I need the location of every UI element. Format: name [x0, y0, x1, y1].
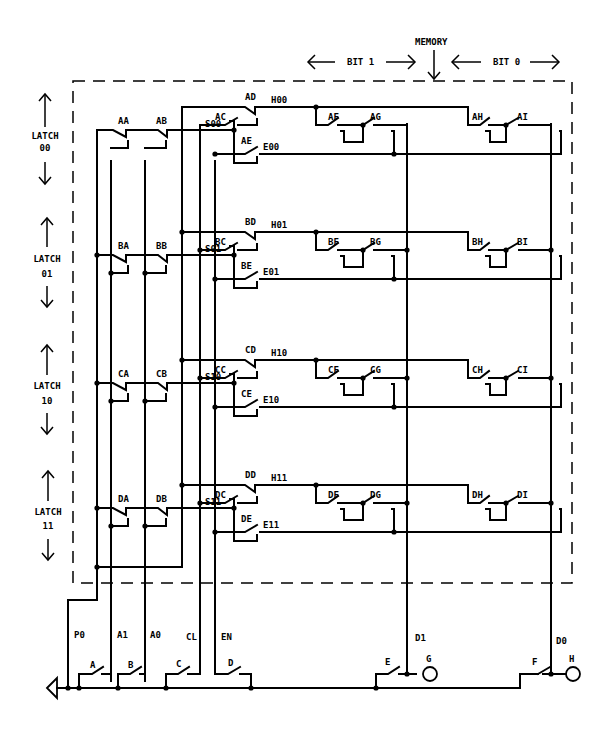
switch-dd[interactable]: DD: [245, 470, 256, 480]
switch-ce[interactable]: CE: [241, 389, 252, 399]
switch-aa[interactable]: AA: [118, 116, 129, 126]
switch-bg[interactable]: BG: [370, 237, 381, 247]
switch-f-label[interactable]: F: [532, 657, 537, 667]
e-net-label: E00: [263, 142, 279, 152]
switch-d-label[interactable]: D: [228, 658, 234, 668]
en-label: EN: [221, 632, 232, 642]
svg-text:01: 01: [42, 269, 53, 279]
latch-row-01: S01BABBBCBDBEBFBGBHBIH01E01: [94, 217, 561, 288]
vertical-buses: [68, 107, 551, 688]
switch-ab[interactable]: AB: [156, 116, 167, 126]
memory-label: MEMORY: [415, 37, 448, 47]
switch-ae[interactable]: AE: [241, 136, 252, 146]
ground-icon: [47, 678, 57, 698]
switch-bd[interactable]: BD: [245, 217, 256, 227]
switch-be[interactable]: BE: [241, 261, 252, 271]
switch-di[interactable]: DI: [517, 490, 528, 500]
e-net-label: E01: [263, 267, 279, 277]
switch-bb[interactable]: BB: [156, 241, 167, 251]
switch-cg[interactable]: CG: [370, 365, 381, 375]
latch-row-11: S11DADBDCDDDEDFDGDHDIH11E11: [94, 470, 561, 541]
memory-header: MEMORY BIT 1 BIT 0: [308, 37, 559, 79]
h-net-label: H00: [271, 95, 287, 105]
bit1-label: BIT 1: [347, 57, 374, 67]
switch-da[interactable]: DA: [118, 494, 129, 504]
p0-label: P0: [74, 630, 85, 640]
lamp-h-label: H: [569, 654, 574, 664]
switch-cb[interactable]: CB: [156, 369, 167, 379]
latch-side-labels: LATCH 00 LATCH 01 LATCH 10 LATCH 11: [31, 94, 61, 560]
h-net-label: H11: [271, 473, 287, 483]
switch-bf[interactable]: BF: [328, 237, 339, 247]
switch-ai[interactable]: AI: [517, 112, 528, 122]
lamp-g-icon: [423, 667, 437, 681]
d1-label: D1: [415, 633, 426, 643]
latch-row-10: S10CACBCCCDCECFCGCHCIH10E10: [94, 345, 561, 416]
switch-af[interactable]: AF: [328, 112, 339, 122]
svg-text:LATCH: LATCH: [31, 131, 58, 141]
latch-row-00: S00AAABACADAEAFAGAHAIH00E00: [97, 92, 561, 163]
switch-cd[interactable]: CD: [245, 345, 256, 355]
switch-ch[interactable]: CH: [472, 365, 483, 375]
svg-text:11: 11: [43, 521, 54, 531]
h-net-label: H10: [271, 348, 287, 358]
latch-00-label: LATCH 00: [31, 94, 58, 184]
e-net-label: E11: [263, 520, 279, 530]
memory-circuit-diagram: MEMORY BIT 1 BIT 0 LATCH 00: [0, 0, 609, 731]
h-net-label: H01: [271, 220, 287, 230]
lamp-g-label: G: [426, 654, 431, 664]
a1-label: A1: [117, 630, 128, 640]
cl-label: CL: [186, 632, 197, 642]
input-section: P0 A1 A0 CL EN A B C D D1 D0 E F G H: [47, 564, 580, 698]
switch-bi[interactable]: BI: [517, 237, 528, 247]
switch-ac[interactable]: AC: [215, 112, 226, 122]
switch-dc[interactable]: DC: [215, 490, 226, 500]
switch-dg[interactable]: DG: [370, 490, 381, 500]
latch-rows: S00AAABACADAEAFAGAHAIH00E00S01BABBBCBDBE…: [94, 92, 561, 541]
switch-db[interactable]: DB: [156, 494, 167, 504]
bit0-label: BIT 0: [493, 57, 520, 67]
switch-ba[interactable]: BA: [118, 241, 129, 251]
svg-text:LATCH: LATCH: [33, 381, 60, 391]
switch-df[interactable]: DF: [328, 490, 339, 500]
switch-dh[interactable]: DH: [472, 490, 483, 500]
switch-c-label[interactable]: C: [176, 659, 181, 669]
switch-bh[interactable]: BH: [472, 237, 483, 247]
switch-ah[interactable]: AH: [472, 112, 483, 122]
latch-11-label: LATCH 11: [34, 471, 61, 560]
svg-text:LATCH: LATCH: [33, 254, 60, 264]
switch-ag[interactable]: AG: [370, 112, 381, 122]
switch-ad[interactable]: AD: [245, 92, 256, 102]
switch-cc[interactable]: CC: [215, 365, 226, 375]
switch-ca[interactable]: CA: [118, 369, 129, 379]
svg-text:10: 10: [42, 396, 53, 406]
lamp-h-icon: [566, 667, 580, 681]
switch-bc[interactable]: BC: [215, 237, 226, 247]
e-net-label: E10: [263, 395, 279, 405]
svg-text:LATCH: LATCH: [34, 507, 61, 517]
latch-01-label: LATCH 01: [33, 218, 60, 307]
d0-label: D0: [556, 636, 567, 646]
latch-10-label: LATCH 10: [33, 345, 60, 434]
switch-de[interactable]: DE: [241, 514, 252, 524]
a0-label: A0: [150, 630, 161, 640]
switch-a-label[interactable]: A: [90, 660, 96, 670]
switch-e-label[interactable]: E: [385, 657, 390, 667]
switch-b-label[interactable]: B: [128, 660, 134, 670]
switch-cf[interactable]: CF: [328, 365, 339, 375]
switch-ci[interactable]: CI: [517, 365, 528, 375]
svg-text:00: 00: [40, 143, 51, 153]
